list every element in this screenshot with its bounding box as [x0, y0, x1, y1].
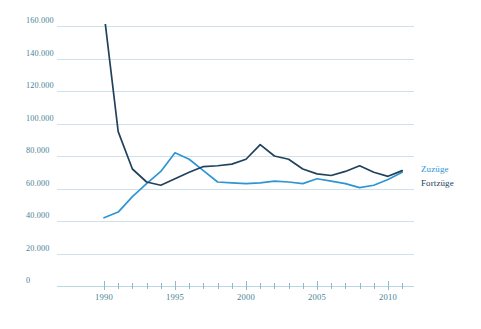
chart-canvas: 020.00040.00060.00080.000100.000120.0001… [0, 0, 481, 329]
x-axis-tick-label: 2010 [379, 292, 397, 302]
y-axis-tick-label: 140.000 [26, 49, 54, 58]
series-line-zuzuge [104, 153, 402, 218]
legend-label-zuzuege: Zuzüge [421, 164, 449, 174]
legend-label-fortzuege: Fortzüge [421, 178, 454, 188]
x-axis-tick-marks [105, 281, 403, 290]
chart-legend: ZuzügeFortzüge [421, 164, 454, 188]
y-axis-tick-label: 20.000 [26, 244, 49, 253]
x-axis-tick-label: 2000 [237, 292, 255, 302]
y-axis-tick-label: 160.000 [26, 16, 54, 25]
y-axis-tick-label: 60.000 [26, 179, 49, 188]
series-line-fortzuge [104, 13, 402, 185]
x-axis-tick-label: 2005 [308, 292, 326, 302]
migration-line-chart: 020.00040.00060.00080.000100.000120.0001… [0, 0, 481, 329]
data-series [104, 13, 402, 218]
y-axis-tick-label: 120.000 [26, 81, 54, 90]
y-axis-tick-label: 100.000 [26, 114, 54, 123]
y-axis-tick-label: 0 [26, 276, 30, 285]
x-axis-tick-label: 1990 [95, 292, 113, 302]
y-axis-tick-labels: 020.00040.00060.00080.000100.000120.0001… [26, 16, 54, 285]
x-axis-tick-label: 1995 [166, 292, 184, 302]
y-axis-tick-label: 40.000 [26, 211, 49, 220]
y-axis-tick-label: 80.000 [26, 146, 49, 155]
x-axis-tick-labels: 19901995200020052010 [95, 292, 397, 302]
